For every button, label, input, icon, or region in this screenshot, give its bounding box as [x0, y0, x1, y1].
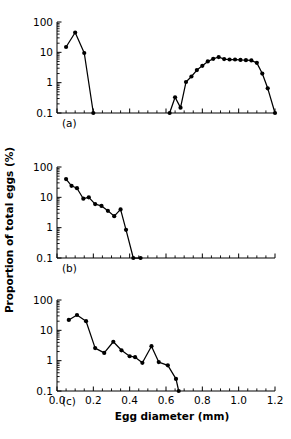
data-point: [99, 204, 103, 208]
y-tick-label: 10: [40, 46, 53, 58]
y-axis-title: Proportion of total eggs (%): [3, 147, 15, 313]
data-point: [233, 57, 237, 61]
data-point: [73, 30, 77, 34]
panel-label: (a): [62, 117, 77, 129]
data-point: [166, 363, 170, 367]
data-point: [189, 74, 193, 78]
data-point: [222, 57, 226, 61]
data-point: [227, 57, 231, 61]
x-axis-title: Egg diameter (mm): [115, 410, 230, 422]
data-point: [138, 256, 142, 260]
data-point: [184, 80, 188, 84]
data-point: [133, 355, 137, 359]
data-point: [260, 71, 264, 75]
data-point: [84, 319, 88, 323]
y-tick-label: 10: [40, 191, 53, 203]
x-tick-label: 0.6: [158, 394, 175, 406]
panel-c: 1001010.1(c): [33, 294, 275, 407]
data-point: [81, 197, 85, 201]
x-tick-label: 0.0: [49, 394, 66, 406]
data-point: [82, 51, 86, 55]
data-point: [211, 57, 215, 61]
y-tick-label: 0.1: [36, 107, 53, 119]
data-point: [168, 111, 172, 115]
data-point: [149, 344, 153, 348]
data-point: [140, 361, 144, 365]
data-point: [93, 202, 97, 206]
data-point: [67, 318, 71, 322]
data-point: [174, 377, 178, 381]
data-point: [111, 340, 115, 344]
y-tick-label: 100: [33, 294, 53, 306]
figure-svg: 1001010.1(a)1001010.1(b)1001010.1(c)0.00…: [0, 0, 291, 439]
data-point: [75, 313, 79, 317]
data-point: [217, 55, 221, 59]
data-point: [177, 389, 181, 393]
data-point: [255, 61, 259, 65]
x-tick-label: 0.2: [85, 394, 102, 406]
data-point: [106, 209, 110, 213]
data-point: [244, 58, 248, 62]
egg-diameter-figure: 1001010.1(a)1001010.1(b)1001010.1(c)0.00…: [0, 0, 291, 439]
data-point: [112, 214, 116, 218]
panel-b: 1001010.1(b): [33, 161, 275, 274]
data-point: [195, 68, 199, 72]
y-tick-label: 100: [33, 16, 53, 28]
panel-a: 1001010.1(a): [33, 16, 277, 129]
y-tick-label: 100: [33, 161, 53, 173]
data-point: [124, 228, 128, 232]
y-tick-label: 0.1: [36, 252, 53, 264]
data-line: [66, 33, 93, 113]
data-point: [93, 346, 97, 350]
data-point: [87, 195, 91, 199]
data-point: [173, 95, 177, 99]
data-point: [119, 348, 123, 352]
data-point: [64, 45, 68, 49]
x-tick-label: 1.2: [267, 394, 284, 406]
y-tick-label: 1: [46, 221, 53, 233]
data-point: [238, 58, 242, 62]
data-point: [178, 106, 182, 110]
x-tick-label: 0.8: [194, 394, 211, 406]
data-point: [266, 86, 270, 90]
data-point: [249, 58, 253, 62]
data-point: [200, 64, 204, 68]
data-line: [69, 315, 179, 391]
y-tick-label: 10: [40, 324, 53, 336]
data-line: [66, 179, 140, 258]
data-point: [64, 177, 68, 181]
data-point: [131, 256, 135, 260]
panel-label: (b): [62, 262, 77, 274]
data-point: [118, 207, 122, 211]
data-point: [69, 184, 73, 188]
data-point: [91, 111, 95, 115]
data-point: [273, 111, 277, 115]
data-point: [75, 186, 79, 190]
x-tick-label: 0.4: [121, 394, 138, 406]
data-point: [157, 360, 161, 364]
x-tick-label: 1.0: [230, 394, 247, 406]
data-point: [128, 354, 132, 358]
y-tick-label: 1: [46, 354, 53, 366]
data-line: [170, 57, 275, 113]
data-point: [102, 351, 106, 355]
y-tick-label: 1: [46, 76, 53, 88]
data-point: [206, 59, 210, 63]
